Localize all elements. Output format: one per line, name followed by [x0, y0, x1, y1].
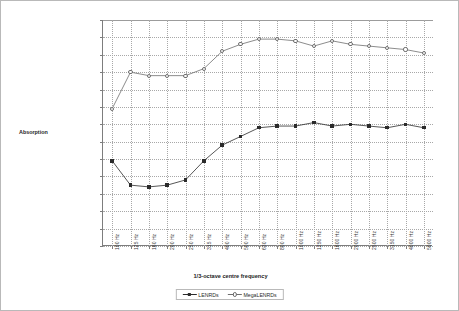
- x-tick-mark: [186, 246, 187, 249]
- x-tick-mark: [406, 246, 407, 249]
- x-tick-mark: [131, 246, 132, 249]
- chart-container: Absorption 0 Sabl/unit1 Sabl/unit2 Sabl/…: [0, 0, 459, 311]
- y-axis-title: Absorption: [19, 129, 48, 135]
- x-tick-mark: [204, 246, 205, 249]
- series-lines: [103, 20, 433, 246]
- series-line-0: [112, 123, 424, 187]
- x-tick-mark: [424, 246, 425, 249]
- filled-square-icon: [188, 293, 191, 296]
- legend-marker-0: [182, 294, 196, 295]
- x-tick-mark: [149, 246, 150, 249]
- chart-legend: LENRDsMegaLENRDs: [175, 289, 283, 300]
- legend-label: LENRDs: [198, 292, 218, 298]
- series-line-1: [112, 39, 424, 109]
- open-circle-icon: [232, 292, 236, 296]
- x-tick-mark: [351, 246, 352, 249]
- y-tick-mark: [100, 246, 103, 247]
- x-tick-mark: [222, 246, 223, 249]
- legend-label: MegaLENRDs: [244, 292, 277, 298]
- legend-marker-1: [228, 294, 242, 295]
- x-tick-mark: [332, 246, 333, 249]
- x-tick-mark: [369, 246, 370, 249]
- x-tick-mark: [241, 246, 242, 249]
- x-tick-mark: [259, 246, 260, 249]
- x-tick-mark: [296, 246, 297, 249]
- x-tick-mark: [167, 246, 168, 249]
- legend-entry-0[interactable]: LENRDs: [182, 292, 218, 298]
- x-tick-mark: [314, 246, 315, 249]
- x-tick-mark: [277, 246, 278, 249]
- x-tick-mark: [112, 246, 113, 249]
- x-axis-title: 1/3-octave centre frequency: [1, 273, 459, 279]
- x-tick-mark: [387, 246, 388, 249]
- plot-area: 0 Sabl/unit1 Sabl/unit2 Sabl/unit3 Sabl/…: [102, 20, 432, 246]
- legend-entry-1[interactable]: MegaLENRDs: [228, 292, 277, 298]
